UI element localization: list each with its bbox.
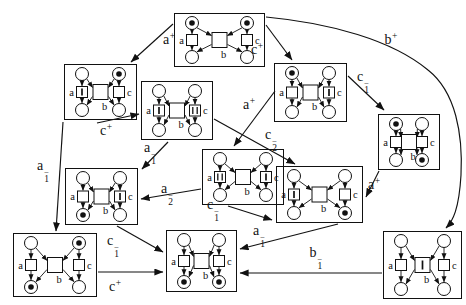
transition-label-a: a	[281, 189, 286, 200]
net-node-r3a: acb	[65, 168, 138, 225]
transition-c	[214, 256, 225, 267]
place-br	[189, 124, 202, 137]
edge-label-c1-minus: c−1	[357, 70, 369, 94]
transition-b	[312, 187, 327, 202]
transition-b	[402, 135, 417, 150]
place-tr	[213, 234, 226, 247]
transition-label-a: a	[383, 137, 388, 148]
transition-label-b: b	[321, 203, 326, 214]
edge-label-a1-minus: a−1	[253, 224, 265, 248]
transition-label-b: b	[56, 274, 61, 285]
transition-a	[391, 137, 402, 148]
edge-label-c-plus: c+	[251, 42, 263, 57]
token-bl	[80, 212, 86, 218]
transition-label-a: a	[279, 87, 284, 98]
net-node-b3: acb	[383, 231, 462, 299]
place-tr	[323, 67, 336, 80]
place-br	[438, 283, 451, 296]
token-br	[342, 210, 348, 216]
transition-label-b: b	[102, 101, 107, 112]
transition-label-b: b	[178, 119, 183, 130]
arc-b-to-br	[210, 266, 215, 277]
place-bl	[286, 106, 299, 119]
transition-label-c: c	[127, 87, 132, 98]
place-bl	[186, 51, 199, 64]
arc-tl-to-b	[297, 78, 303, 88]
place-tl	[178, 234, 191, 247]
transition-b	[93, 85, 108, 100]
arc-tr-to-b	[210, 245, 215, 257]
arc-tr-to-b	[185, 96, 190, 106]
transition-c	[439, 260, 450, 271]
transition-a	[396, 260, 407, 271]
place-tr	[416, 118, 429, 131]
transition-label-b: b	[244, 186, 249, 197]
transition-a	[26, 260, 37, 271]
arc-b-to-br	[63, 270, 74, 282]
net-node-r2d: acb	[378, 114, 440, 170]
net-node-r3c: acb	[276, 166, 363, 223]
place-bl	[76, 104, 89, 117]
edge-label-a-plus: a+	[163, 32, 175, 47]
arc-tl-to-b	[36, 248, 47, 261]
transition-a	[287, 87, 298, 98]
place-bl	[153, 124, 166, 137]
arc-tl-to-b	[406, 246, 415, 261]
transition-b	[236, 170, 251, 185]
transition-b	[303, 85, 318, 100]
place-br	[73, 281, 86, 294]
place-tr	[114, 172, 127, 185]
transition-c	[417, 137, 428, 148]
edge-c-plus-top-r2c	[266, 25, 292, 60]
edge-label-a1-minus: a−1	[144, 141, 156, 165]
arc-b-to-br	[328, 199, 341, 208]
transition-label-a: a	[146, 105, 151, 116]
place-br	[114, 209, 127, 222]
transition-c	[114, 87, 125, 98]
arc-tr-to-b	[228, 28, 243, 36]
edge-label-c-plus: c+	[109, 279, 121, 294]
place-tr	[438, 235, 451, 248]
token-tr	[244, 20, 250, 26]
transition-label-b: b	[312, 101, 317, 112]
transition-label-a: a	[18, 260, 23, 271]
net-node-b2: acb	[166, 230, 237, 292]
arc-b-to-bl	[406, 270, 415, 284]
place-br	[113, 104, 126, 117]
place-tr	[339, 170, 352, 183]
edge-c1-minus-r3a-b2	[117, 226, 163, 252]
transition-label-a: a	[388, 260, 393, 271]
transition-label-b: b	[221, 49, 226, 60]
transition-label-c: c	[203, 105, 208, 116]
arc-b-to-bl	[197, 45, 212, 52]
token-tr	[116, 71, 122, 77]
edge-label-a1-minus: a−1	[37, 159, 49, 183]
transition-label-a: a	[179, 35, 184, 46]
place-tl	[288, 170, 301, 183]
transition-label-c: c	[452, 260, 457, 271]
token-bl	[181, 279, 187, 285]
arc-tl-to-b	[197, 28, 212, 36]
token-tl	[189, 20, 195, 26]
arc-b-to-bl	[189, 266, 194, 277]
transition-label-b: b	[203, 270, 208, 281]
place-tl	[77, 172, 90, 185]
transition-label-c: c	[87, 260, 92, 271]
place-tr	[189, 85, 202, 98]
place-tr	[260, 153, 273, 166]
transition-label-a: a	[70, 191, 75, 202]
edge-label-c2-minus: c−2	[265, 128, 277, 152]
transition-label-a: a	[69, 87, 74, 98]
edge-label-a2-minus: a−2	[161, 182, 173, 206]
net-node-top: acb	[174, 13, 265, 67]
edge-c1-minus-r3b-r3c	[228, 206, 272, 220]
edge-a1-minus-r2a-b1	[56, 122, 63, 231]
transition-b	[170, 103, 185, 118]
net-node-r2b: acb	[141, 81, 213, 140]
arc-tl-to-b	[299, 181, 312, 190]
edge-label-c1-minus: c−1	[107, 234, 119, 258]
transition-label-c: c	[128, 191, 133, 202]
transition-label-c: c	[337, 87, 342, 98]
token-tl	[393, 121, 399, 127]
token-br	[419, 157, 425, 163]
